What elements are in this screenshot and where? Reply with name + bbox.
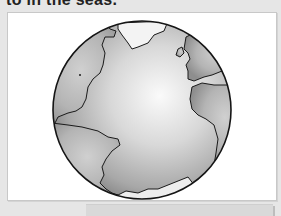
bottom-panel-edge bbox=[86, 204, 273, 216]
scrollbar-edge bbox=[273, 206, 275, 216]
globe-sphere bbox=[28, 21, 248, 200]
europe-land bbox=[184, 33, 238, 81]
cut-off-caption-text: to in the seas. bbox=[6, 0, 117, 9]
globe-illustration bbox=[8, 13, 276, 200]
figure-frame bbox=[7, 12, 277, 201]
